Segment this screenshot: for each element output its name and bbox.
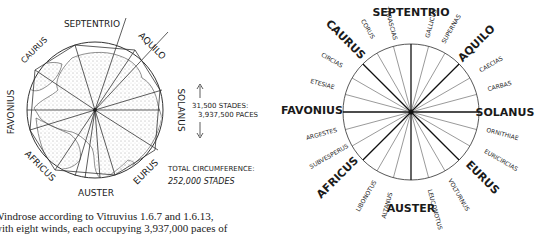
wind-label-ornithiae: ORNITHIAE [486,126,520,141]
wind-label-euricircias: EURICIRCIAS [483,147,519,172]
wind-label-corus: CORUS [360,18,377,40]
caption-line-2: with eight winds, each occupying 3,937,0… [0,222,227,234]
wind-label-favonius: FAVONIUS [6,89,16,134]
wind-label-argestes: ARGESTES [305,126,338,141]
major-wind-labels: SEPTENTRIO AQUILO SOLANUS EURUS AUSTER A… [281,6,534,215]
right-windrose: SEPTENTRIO AQUILO SOLANUS EURUS AUSTER A… [281,5,534,230]
wind-label-auster: AUSTER [387,202,436,215]
wind-label-circias: CIRCIAS [320,51,344,69]
wind-label-septentrio: SEPTENTRIO [64,19,120,29]
figure-caption: Windrose according to Vitruvius 1.6.7 an… [0,210,227,234]
world-map-landmass [28,52,162,180]
wind-label-carbas: CARBAS [487,79,513,92]
left-windrose: SEPTENTRIO AQUILO SOLANUS EURUS AUSTER A… [6,18,259,198]
circumference-value: 252,000 STADES [168,177,235,186]
wind-label-caurus: CAURUS [19,35,49,65]
distance-label-paces: 3,937,500 PACES [198,111,259,119]
caption-line-1: Windrose according to Vitruvius 1.6.7 an… [0,210,227,222]
wind-label-etesiae: ETESIAE [310,77,336,90]
circumference-label: TOTAL CIRCUMFERENCE: [167,165,255,173]
windrose-figure: SEPTENTRIO AQUILO SOLANUS EURUS AUSTER A… [0,0,538,236]
wind-label-eurus: EURUS [463,158,502,197]
wind-label-libonotus: LIBONOTUS [354,179,378,213]
wind-label-auster: AUSTER [78,188,114,198]
distance-label-stades: 31,500 STADES: [192,102,248,110]
wind-label-solanus: SOLANUS [476,106,535,119]
wind-label-favonius: FAVONIUS [281,104,343,117]
wind-label-aquilo: AQUILO [137,30,168,61]
wind-label-volturnus: VOLTURNUS [447,177,471,212]
wind-label-caecias: CAECIAS [478,54,504,73]
wind-label-solanus: SOLANUS [176,88,186,131]
